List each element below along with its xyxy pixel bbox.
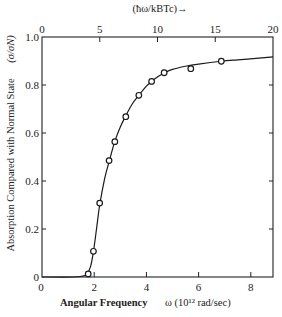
y-tick-label: 0.6 [25, 127, 39, 139]
x-tick-label: 2 [91, 281, 97, 293]
data-markers [85, 58, 224, 276]
theory-curve [42, 57, 273, 277]
top-x-tick-label: 5 [97, 23, 103, 35]
x-axis-title: Angular Frequency [60, 297, 148, 308]
top-x-tick-label: 0 [39, 23, 45, 35]
axis-ticks [42, 37, 273, 277]
y-tick-label: 0.4 [25, 175, 39, 187]
data-point [149, 79, 155, 85]
data-point [161, 70, 167, 76]
x-axis-units: ω (10¹² rad/sec) [165, 297, 231, 309]
y-axis-units: (σ/σN) [5, 35, 17, 63]
data-point [136, 93, 142, 99]
data-point [219, 58, 225, 64]
top-x-tick-label: 15 [210, 23, 222, 35]
chart: (ħω/kBTc)→ 024680510152000.20.40.60.81.0… [0, 0, 282, 317]
data-point [91, 249, 97, 255]
data-point [123, 114, 129, 120]
data-point [106, 158, 112, 164]
y-tick-label: 0.8 [25, 79, 39, 91]
data-point [112, 139, 118, 145]
data-point [188, 66, 194, 72]
y-axis-title: Absorption Compared with Normal State [5, 78, 16, 252]
y-axis-title-group: Absorption Compared with Normal State (σ… [5, 35, 17, 252]
plot-frame [42, 37, 273, 277]
x-tick-label: 0 [38, 281, 44, 293]
top-axis-title: (ħω/kBTc)→ [132, 3, 187, 15]
x-tick-label: 8 [248, 281, 254, 293]
top-x-tick-label: 20 [268, 23, 280, 35]
tick-labels: 024680510152000.20.40.60.81.0 [25, 23, 279, 293]
y-tick-label: 0.2 [25, 223, 39, 235]
top-x-tick-label: 10 [152, 23, 164, 35]
y-tick-label: 1.0 [25, 31, 39, 43]
x-tick-label: 4 [144, 281, 150, 293]
y-tick-label: 0 [34, 271, 40, 283]
data-point [85, 271, 91, 277]
data-point [97, 200, 103, 206]
x-tick-label: 6 [196, 281, 202, 293]
